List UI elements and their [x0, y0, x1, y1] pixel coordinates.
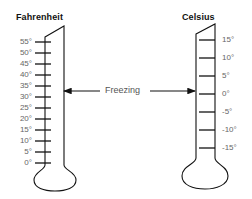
- tick-label: -10°: [222, 126, 237, 134]
- tick-label: -15°: [222, 144, 237, 152]
- celsius-title: Celsius: [182, 12, 215, 22]
- tick-label: 15°: [2, 126, 32, 134]
- tick-label: 10°: [222, 54, 234, 62]
- tick-label: 0°: [2, 159, 32, 167]
- celsius-ticks: [199, 40, 215, 148]
- tick-label: 20°: [2, 115, 32, 123]
- tick-label: 50°: [2, 49, 32, 57]
- tick-label: 5°: [2, 148, 32, 156]
- tick-label: 40°: [2, 71, 32, 79]
- freezing-label: Freezing: [105, 85, 140, 95]
- thermometer-drawings: [0, 0, 252, 199]
- fahrenheit-ticks: [35, 42, 51, 163]
- tick-label: 35°: [2, 82, 32, 90]
- tick-label: 55°: [2, 38, 32, 46]
- tick-label: 45°: [2, 60, 32, 68]
- tick-label: 0°: [222, 90, 230, 98]
- tick-label: 10°: [2, 137, 32, 145]
- tick-label: 15°: [222, 36, 234, 44]
- tick-label: 30°: [2, 93, 32, 101]
- tick-label: -5°: [222, 108, 232, 116]
- fahrenheit-title: Fahrenheit: [16, 12, 63, 22]
- thermometer-diagram: Fahrenheit Celsius 55°50°45°40°35°30°25°…: [0, 0, 252, 199]
- tick-label: 5°: [222, 72, 230, 80]
- tick-label: 25°: [2, 104, 32, 112]
